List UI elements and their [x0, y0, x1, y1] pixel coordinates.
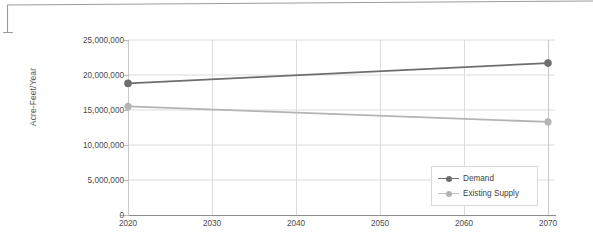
legend-item-demand: Demand: [438, 171, 537, 186]
legend-label-demand: Demand: [463, 174, 494, 183]
x-tick-label: 2070: [539, 219, 557, 228]
series-existing-supply: [124, 103, 551, 126]
x-tick-label: 2020: [119, 219, 137, 228]
y-axis-labels: 25,000,000 20,000,000 15,000,000 10,000,…: [52, 0, 124, 246]
x-tick-label: 2040: [287, 219, 305, 228]
horizontal-gridlines: [128, 40, 555, 180]
y-tick-label: 25,000,000: [54, 36, 124, 45]
series-demand: [124, 59, 552, 87]
legend-label-existing-supply: Existing Supply: [463, 189, 519, 198]
x-tick-label: 2030: [203, 219, 221, 228]
x-tick-label: 2050: [371, 219, 389, 228]
y-tick-label: 0: [54, 211, 124, 220]
y-tick-label: 10,000,000: [54, 141, 124, 150]
line-chart: Acre-Feet/Year: [0, 0, 593, 246]
y-tick-label: 20,000,000: [54, 71, 124, 80]
y-tick-label: 5,000,000: [54, 176, 124, 185]
legend-item-existing-supply: Existing Supply: [438, 186, 537, 201]
chart-legend: Demand Existing Supply: [431, 166, 538, 206]
y-tick-label: 15,000,000: [54, 106, 124, 115]
legend-marker-existing-supply-icon: [438, 189, 459, 199]
x-tick-label: 2060: [455, 219, 473, 228]
legend-marker-demand-icon: [438, 174, 459, 184]
